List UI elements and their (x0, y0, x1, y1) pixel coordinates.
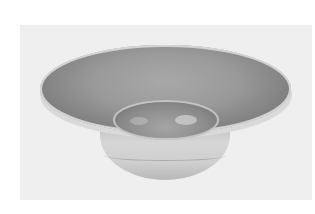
bowl-inner-well (113, 100, 219, 140)
ceramic-bowl (0, 0, 315, 214)
glaze-highlight-secondary (130, 117, 148, 125)
glaze-highlight (175, 115, 197, 125)
bowl-foot-band (104, 150, 226, 161)
